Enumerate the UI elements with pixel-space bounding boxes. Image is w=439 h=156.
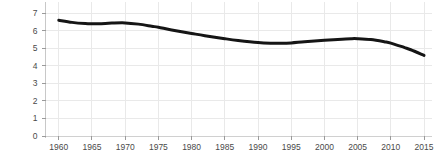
y-tick-label: 2 bbox=[33, 96, 38, 106]
x-tick-label: 2010 bbox=[381, 142, 400, 152]
x-tick-label: 1970 bbox=[116, 142, 135, 152]
chart-background-layer bbox=[0, 0, 439, 156]
y-tick-label: 0 bbox=[33, 131, 38, 141]
x-tick-label: 1985 bbox=[215, 142, 234, 152]
y-tick-label: 7 bbox=[33, 8, 38, 18]
x-tick-label: 2000 bbox=[315, 142, 334, 152]
y-tick-label: 5 bbox=[33, 43, 38, 53]
x-tick-label: 1965 bbox=[83, 142, 102, 152]
x-tick-label: 1990 bbox=[249, 142, 268, 152]
x-tick-label: 2005 bbox=[348, 142, 367, 152]
chart-container: Workers Per Elderly Ratio 01234567 19601… bbox=[0, 0, 439, 156]
y-tick-label: 1 bbox=[33, 113, 38, 123]
x-tick-label: 1980 bbox=[182, 142, 201, 152]
x-tick-label: 1995 bbox=[282, 142, 301, 152]
x-tick-label: 1960 bbox=[49, 142, 68, 152]
y-tick-label: 6 bbox=[33, 26, 38, 36]
x-tick-label: 1975 bbox=[149, 142, 168, 152]
x-tick-label: 2015 bbox=[415, 142, 434, 152]
line-chart-plot: 01234567 1960196519701975198019851990199… bbox=[0, 0, 439, 156]
plot-background bbox=[0, 0, 439, 156]
y-tick-label: 3 bbox=[33, 78, 38, 88]
y-tick-label: 4 bbox=[33, 61, 38, 71]
